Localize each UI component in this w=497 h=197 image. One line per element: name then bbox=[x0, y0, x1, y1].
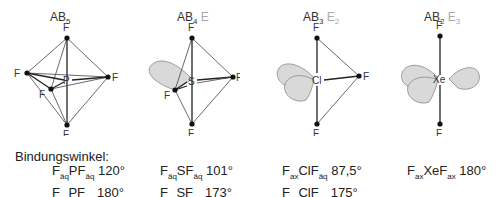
ligand-label: F bbox=[14, 68, 20, 79]
ligand-label: F bbox=[63, 129, 69, 136]
center-atom-label: P bbox=[63, 75, 70, 86]
angles-heading: Bindungswinkel: bbox=[15, 149, 109, 164]
angles-clf3: FaxClFäq 87,5° FaxClFax 175° bbox=[282, 163, 362, 197]
angles-pf5: FäqPFäq 120° FaxPFax 180° bbox=[52, 163, 125, 197]
center-atom-label: Xe bbox=[433, 74, 446, 85]
ligand-label: F bbox=[188, 128, 194, 136]
lone-pair-lobe bbox=[149, 61, 192, 90]
ligand-label: F bbox=[39, 89, 45, 100]
ligand-label: F bbox=[188, 22, 194, 33]
pf5-structure: F F F F F P bbox=[0, 16, 130, 136]
angle-row: FaxClFäq 87,5° bbox=[282, 163, 362, 185]
lone-pair-lobe bbox=[285, 76, 314, 101]
ligand-label: F bbox=[164, 90, 170, 101]
ligand-label: F bbox=[436, 128, 442, 136]
center-atom-label: S bbox=[188, 76, 195, 87]
clf3-structure: F F F Cl bbox=[240, 16, 370, 136]
ligand-label: F bbox=[313, 128, 319, 136]
angle-row: FaxSFax 173° bbox=[160, 185, 233, 197]
ligand-label: F bbox=[436, 20, 442, 31]
angle-row: FaxXeFax 180° bbox=[407, 163, 486, 185]
sf4-structure: F F F F S bbox=[120, 16, 240, 136]
ligand-label: F bbox=[313, 22, 319, 33]
ligand-label: F bbox=[63, 22, 69, 33]
lone-pair-lobe bbox=[449, 68, 479, 90]
angles-xef2: FaxXeFax 180° bbox=[407, 163, 486, 185]
angle-row: FaxPFax 180° bbox=[52, 185, 125, 197]
angles-sf4: FäqSFäq 101° FaxSFax 173° bbox=[160, 163, 233, 197]
angle-row: FaxClFax 175° bbox=[282, 185, 362, 197]
angle-row: FäqSFäq 101° bbox=[160, 163, 233, 185]
xef2-structure: F F Xe bbox=[360, 16, 497, 136]
center-atom-label: Cl bbox=[312, 75, 321, 86]
angle-row: FäqPFäq 120° bbox=[52, 163, 125, 185]
ligand-label: F bbox=[112, 72, 118, 83]
